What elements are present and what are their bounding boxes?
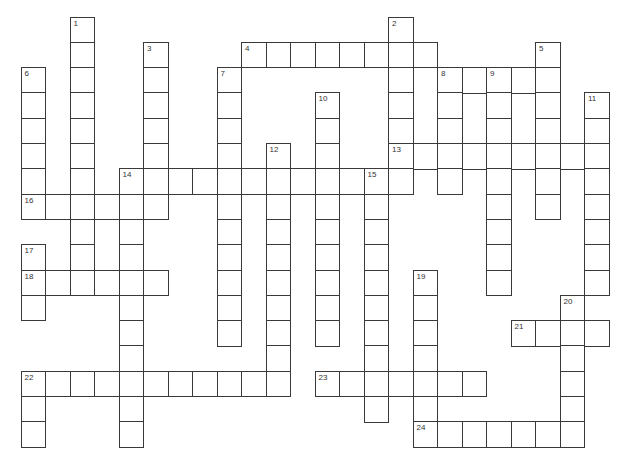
- cell[interactable]: [290, 42, 316, 69]
- cell[interactable]: [315, 219, 341, 246]
- cell[interactable]: [388, 118, 414, 145]
- cell[interactable]: [70, 92, 96, 119]
- cell[interactable]: [45, 371, 71, 398]
- cell[interactable]: [584, 320, 610, 347]
- cell-3[interactable]: 3: [143, 42, 169, 69]
- cell[interactable]: [315, 168, 341, 195]
- cell[interactable]: [535, 168, 561, 195]
- cell[interactable]: [70, 118, 96, 145]
- cell[interactable]: [413, 320, 439, 347]
- cell[interactable]: [119, 320, 145, 347]
- cell[interactable]: [94, 371, 120, 398]
- cell[interactable]: [535, 92, 561, 119]
- cell[interactable]: [486, 92, 512, 119]
- cell[interactable]: [119, 244, 145, 271]
- cell[interactable]: [364, 396, 390, 423]
- cell[interactable]: [486, 143, 512, 170]
- cell[interactable]: [143, 92, 169, 119]
- cell[interactable]: [584, 219, 610, 246]
- cell[interactable]: [70, 371, 96, 398]
- cell[interactable]: [437, 143, 463, 170]
- cell[interactable]: [21, 118, 47, 145]
- cell[interactable]: [94, 194, 120, 221]
- cell[interactable]: [413, 345, 439, 372]
- cell[interactable]: [94, 270, 120, 297]
- cell[interactable]: [486, 421, 512, 448]
- cell[interactable]: [217, 118, 243, 145]
- cell[interactable]: [315, 194, 341, 221]
- cell[interactable]: [535, 194, 561, 221]
- cell[interactable]: [217, 194, 243, 221]
- cell[interactable]: [315, 118, 341, 145]
- cell[interactable]: [143, 371, 169, 398]
- cell-10[interactable]: 10: [315, 92, 341, 119]
- cell[interactable]: [535, 421, 561, 448]
- cell[interactable]: [437, 421, 463, 448]
- cell[interactable]: [535, 67, 561, 94]
- cell[interactable]: [535, 143, 561, 170]
- cell-16[interactable]: 16: [21, 194, 47, 221]
- cell-15[interactable]: 15: [364, 168, 390, 195]
- cell[interactable]: [21, 396, 47, 423]
- cell[interactable]: [413, 143, 439, 170]
- cell[interactable]: [119, 219, 145, 246]
- cell[interactable]: [511, 143, 537, 170]
- cell[interactable]: [315, 143, 341, 170]
- cell-4[interactable]: 4: [241, 42, 267, 69]
- cell[interactable]: [339, 42, 365, 69]
- cell[interactable]: [70, 219, 96, 246]
- cell[interactable]: [217, 92, 243, 119]
- cell[interactable]: [217, 371, 243, 398]
- cell[interactable]: [119, 345, 145, 372]
- cell[interactable]: [266, 320, 292, 347]
- cell[interactable]: [560, 320, 586, 347]
- cell[interactable]: [364, 219, 390, 246]
- cell[interactable]: [45, 194, 71, 221]
- cell-2[interactable]: 2: [388, 17, 414, 44]
- cell[interactable]: [584, 143, 610, 170]
- cell[interactable]: [21, 295, 47, 322]
- cell[interactable]: [364, 42, 390, 69]
- cell[interactable]: [486, 270, 512, 297]
- cell[interactable]: [339, 168, 365, 195]
- cell[interactable]: [560, 421, 586, 448]
- cell[interactable]: [511, 421, 537, 448]
- cell[interactable]: [364, 295, 390, 322]
- cell[interactable]: [266, 244, 292, 271]
- cell[interactable]: [584, 270, 610, 297]
- cell[interactable]: [266, 371, 292, 398]
- cell[interactable]: [217, 219, 243, 246]
- cell[interactable]: [266, 42, 292, 69]
- cell[interactable]: [437, 118, 463, 145]
- cell[interactable]: [388, 42, 414, 69]
- cell[interactable]: [70, 143, 96, 170]
- cell[interactable]: [266, 168, 292, 195]
- cell[interactable]: [388, 168, 414, 195]
- cell-14[interactable]: 14: [119, 168, 145, 195]
- cell[interactable]: [364, 320, 390, 347]
- cell-9[interactable]: 9: [486, 67, 512, 94]
- cell[interactable]: [315, 320, 341, 347]
- cell[interactable]: [437, 371, 463, 398]
- cell[interactable]: [535, 320, 561, 347]
- cell-20[interactable]: 20: [560, 295, 586, 322]
- cell-18[interactable]: 18: [21, 270, 47, 297]
- cell[interactable]: [486, 118, 512, 145]
- cell[interactable]: [364, 345, 390, 372]
- cell[interactable]: [486, 194, 512, 221]
- cell-21[interactable]: 21: [511, 320, 537, 347]
- cell[interactable]: [192, 168, 218, 195]
- cell[interactable]: [413, 396, 439, 423]
- cell[interactable]: [560, 396, 586, 423]
- cell[interactable]: [119, 194, 145, 221]
- cell-6[interactable]: 6: [21, 67, 47, 94]
- cell[interactable]: [535, 118, 561, 145]
- cell-8[interactable]: 8: [437, 67, 463, 94]
- cell[interactable]: [143, 270, 169, 297]
- cell[interactable]: [143, 194, 169, 221]
- cell[interactable]: [21, 143, 47, 170]
- cell[interactable]: [290, 168, 316, 195]
- cell[interactable]: [168, 371, 194, 398]
- cell[interactable]: [119, 295, 145, 322]
- cell[interactable]: [315, 42, 341, 69]
